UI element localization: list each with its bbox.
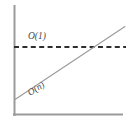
- linear-complexity-label: O(n): [26, 80, 47, 99]
- complexity-chart-figure: O(1) O(n): [0, 0, 129, 127]
- constant-complexity-label: O(1): [28, 31, 46, 42]
- plot-canvas: O(1) O(n): [0, 0, 129, 127]
